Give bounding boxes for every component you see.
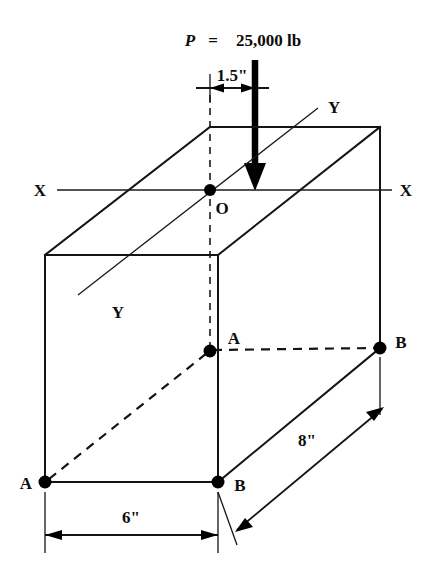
engineering-figure: P = 25,000 lb 1.5" X X Y Y <box>0 0 433 580</box>
hidden-left-receding-edge <box>49 353 207 479</box>
depth-dimension-label: 8" <box>298 431 316 450</box>
eccentricity-dimension-label: 1.5" <box>217 66 248 85</box>
depth-arrow-lower <box>235 518 253 532</box>
equals-sign: = <box>208 31 218 50</box>
x-axis-label-right: X <box>400 181 413 200</box>
point-a-mid-label: A <box>228 329 241 348</box>
point-b-mid-label: B <box>395 333 406 352</box>
load-symbol-label: P <box>184 31 196 50</box>
bottom-right-edge <box>218 348 380 482</box>
point-a-mid <box>204 345 217 358</box>
width-arrow-left <box>45 530 62 540</box>
width-arrow-right <box>201 530 218 540</box>
point-a-bottom-label: A <box>20 474 33 493</box>
depth-arrow-upper <box>366 407 384 421</box>
x-axis-label-left: X <box>34 181 47 200</box>
depth-extension-lower <box>218 492 237 545</box>
y-axis-label-lower: Y <box>112 303 124 322</box>
depth-dimension-line <box>237 409 382 530</box>
load-arrow-head <box>244 163 266 191</box>
point-a-bottom <box>39 476 52 489</box>
load-value-label: 25,000 lb <box>236 31 301 50</box>
point-b-bottom <box>212 476 225 489</box>
top-right-edge <box>218 127 380 255</box>
hidden-rear-bottom-edge <box>213 348 377 350</box>
origin-label: O <box>215 199 228 218</box>
width-dimension-label: 6" <box>122 508 140 527</box>
point-b-mid <box>374 342 387 355</box>
y-axis-label-upper: Y <box>328 98 340 117</box>
point-b-bottom-label: B <box>234 476 245 495</box>
origin-point <box>204 184 216 196</box>
top-left-edge <box>45 127 210 255</box>
